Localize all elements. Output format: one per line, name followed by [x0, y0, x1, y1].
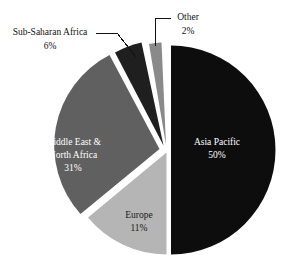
slice-label-sub-saharan-africa-name: Sub-Saharan Africa	[13, 27, 88, 37]
slice-label-europe-percent: 11%	[130, 223, 147, 233]
pie-chart-container: Asia Pacific 50% Europe 11% Middle East …	[0, 0, 286, 273]
slice-label-asia-pacific-name: Asia Pacific	[194, 137, 240, 147]
slice-label-other-percent: 2%	[182, 26, 195, 36]
leader-line-other	[156, 18, 172, 46]
slice-label-mena-percent: 31%	[64, 163, 82, 173]
slice-label-asia-pacific-percent: 50%	[208, 150, 226, 160]
slice-label-sub-saharan-africa-percent: 6%	[44, 41, 57, 51]
slice-label-mena-name-line1: Middle East &	[45, 137, 102, 147]
slice-label-mena-name-line2: North Africa	[49, 150, 98, 160]
pie-chart-svg: Asia Pacific 50% Europe 11% Middle East …	[0, 0, 286, 273]
slice-label-other-name: Other	[177, 12, 199, 22]
slice-label-europe-name: Europe	[125, 210, 152, 220]
